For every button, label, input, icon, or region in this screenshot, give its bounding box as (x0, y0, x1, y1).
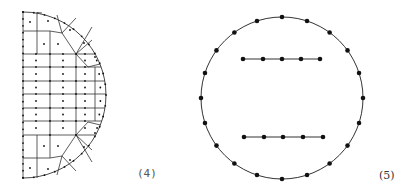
mesh-node (94, 136, 96, 138)
mesh-node (35, 93, 37, 95)
boundary-node (255, 173, 260, 178)
mesh-node (73, 160, 75, 162)
boundary-node (345, 143, 350, 148)
mesh-node (57, 145, 59, 147)
mesh-node (75, 53, 77, 55)
mesh-node (22, 66, 24, 68)
mesh-node (84, 107, 86, 109)
mesh-node (84, 93, 86, 95)
mesh-node (22, 73, 24, 75)
mesh-node (99, 100, 101, 102)
mesh-node (49, 120, 51, 122)
mesh-node (22, 11, 24, 13)
mesh-node (22, 163, 24, 165)
boundary-node (327, 30, 332, 35)
mesh-node (69, 159, 71, 161)
mesh-node (22, 135, 24, 137)
boundary-node (214, 143, 219, 148)
mesh-node (84, 73, 86, 75)
mesh-node (49, 107, 51, 109)
mesh-node (35, 114, 37, 116)
mesh-edge (88, 122, 100, 125)
segment-node (301, 135, 306, 140)
mesh-node (62, 66, 64, 68)
mesh-node (35, 73, 37, 75)
boundary-node (255, 19, 260, 24)
mesh-node (49, 53, 51, 55)
mesh-node (81, 35, 83, 37)
mesh-node (84, 87, 86, 89)
mesh-node (49, 93, 51, 95)
mesh-node (29, 21, 31, 23)
mesh-node (22, 39, 24, 41)
mesh-node (22, 80, 24, 82)
mesh-edge (50, 31, 62, 33)
segment-node (280, 57, 285, 62)
segment-node (241, 57, 246, 62)
mesh-node (104, 105, 106, 107)
boundary-node (232, 30, 237, 35)
mesh-node (75, 80, 77, 82)
segment-node (242, 135, 247, 140)
mesh-node (33, 12, 35, 14)
mesh-node (35, 120, 37, 122)
mesh-node (104, 83, 106, 85)
mesh-node (22, 108, 24, 110)
boundary-circle (201, 17, 363, 179)
boundary-node (305, 173, 310, 178)
mesh-node (35, 87, 37, 89)
boundary-node (280, 177, 285, 182)
boundary-node (327, 161, 332, 166)
mesh-node (98, 114, 100, 116)
mesh-node (22, 170, 24, 172)
segment-node (299, 57, 304, 62)
mesh-node (47, 168, 49, 170)
mesh-node (22, 149, 24, 151)
mesh-node (88, 44, 90, 46)
mesh-node (43, 43, 45, 45)
mesh-node (84, 114, 86, 116)
mesh-node (62, 107, 64, 109)
mesh-node (47, 20, 49, 22)
segment-node (321, 135, 326, 140)
mesh-node (99, 87, 101, 89)
mesh-node (84, 53, 86, 55)
mesh-node (22, 59, 24, 61)
boundary-node (232, 161, 237, 166)
mesh-edge (57, 156, 62, 175)
mesh-node (29, 167, 31, 169)
mesh-node (22, 177, 24, 179)
segment-node (281, 135, 286, 140)
mesh-edge (62, 156, 76, 171)
mesh-node (35, 60, 37, 62)
boundary-node (280, 15, 285, 20)
mesh-edge (37, 13, 42, 14)
mesh-edge (62, 135, 76, 156)
mesh-node (62, 53, 64, 55)
boundary-node (214, 48, 219, 53)
mesh-edge (76, 27, 92, 54)
mesh-edge (76, 135, 92, 162)
mesh-edge (76, 122, 88, 135)
figure-label-4: (4) (137, 167, 157, 180)
mesh-node (22, 25, 24, 27)
mesh-node (84, 80, 86, 82)
mesh-node (62, 114, 64, 116)
mesh-node (102, 73, 104, 75)
mesh-node (62, 93, 64, 95)
mesh-node (62, 127, 64, 129)
diagram-canvas (0, 0, 408, 194)
mesh-edge (76, 40, 92, 54)
mesh-node (73, 28, 75, 30)
mesh-node (54, 171, 56, 173)
mesh-node (84, 127, 86, 129)
boundary-node (199, 96, 204, 101)
boundary-node (305, 19, 310, 24)
mesh-node (88, 145, 90, 147)
mesh-node (35, 66, 37, 68)
mesh-node (62, 60, 64, 62)
mesh-node (35, 107, 37, 109)
mesh-node (94, 56, 96, 58)
mesh-edge (57, 15, 62, 33)
boundary-node (357, 71, 362, 76)
